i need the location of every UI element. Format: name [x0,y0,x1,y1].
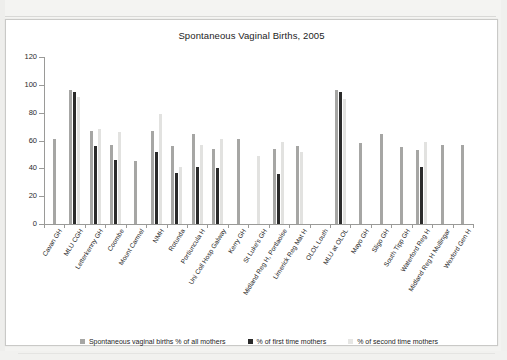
x-axis-tick [473,225,474,228]
legend-item: Spontaneous vaginal births % of all moth… [80,338,226,345]
x-axis-tick [371,225,372,228]
y-axis-tick-label: 100 [11,81,37,89]
bar-group [412,57,432,224]
y-axis-labels: 020406080100120 [6,57,37,225]
x-axis-tick [167,225,168,228]
bar-group [248,57,268,224]
bar [200,145,203,224]
bar [257,156,260,224]
x-axis-tick-label: Cavan GH [42,228,64,258]
bar [420,167,423,224]
page-top-margin [0,0,507,10]
bar-group [350,57,370,224]
x-axis-tick [432,225,433,228]
x-axis-tick [330,225,331,228]
x-axis-tick [248,225,249,228]
x-axis-tick [289,225,290,228]
y-axis-tick-label: 20 [11,192,37,200]
bar [281,142,284,224]
bar [77,97,80,224]
x-axis-tick [453,225,454,228]
chart-legend: Spontaneous vaginal births % of all moth… [44,338,474,345]
y-axis-tick [39,168,44,169]
x-axis-tick-label: Sligo GH [371,228,391,254]
y-axis-tick-label: 120 [11,53,37,61]
bar [343,99,346,224]
bar [90,131,93,224]
y-axis-tick [39,141,44,142]
y-axis-tick [39,113,44,114]
bar [94,146,97,224]
x-axis-tick [187,225,188,228]
bar [118,132,121,224]
x-axis-tick [44,225,45,228]
bar [300,152,303,224]
bar [380,134,383,224]
bar-group [228,57,248,224]
bar [277,174,280,224]
bar [220,139,223,224]
bar [424,142,427,224]
bar [151,131,154,224]
bar-group [126,57,146,224]
x-axis-tick [207,225,208,228]
x-axis-tick [105,225,106,228]
bar [416,150,419,224]
x-axis-tick [310,225,311,228]
y-axis-tick-label: 80 [11,109,37,117]
x-axis-tick [126,225,127,228]
x-axis-tick-label: Kerry GH [227,228,247,255]
legend-label: % of second time mothers [357,338,438,345]
bar-group [453,57,473,224]
bar-group [269,57,289,224]
x-axis-line [44,224,474,225]
bar [155,152,158,224]
y-axis-tick-label: 0 [11,220,37,228]
bar [335,90,338,224]
bar-group [432,57,452,224]
x-axis-tick [228,225,229,228]
bar [98,129,101,224]
bar [216,168,219,224]
bar [400,147,403,224]
x-axis-tick-label: NMH [152,228,166,244]
bar [171,146,174,224]
x-axis-tick [269,225,270,228]
y-axis-tick-label: 60 [11,137,37,145]
bar-group [64,57,84,224]
x-axis-tick [64,225,65,228]
bar [69,90,72,224]
bar-group [44,57,64,224]
legend-item: % of first time mothers [248,338,327,345]
bar-group [289,57,309,224]
x-axis-tick-label: Rotunda [168,228,187,253]
x-axis-tick-label: Coombe [106,228,125,253]
bar-group [85,57,105,224]
bar [114,160,117,224]
bar [175,173,178,224]
bar-group [146,57,166,224]
x-axis-labels: Cavan GHMLU CGHLetterkenny GHCoombeMount… [44,228,474,324]
bar [53,139,56,224]
x-axis-tick [391,225,392,228]
bar [134,161,137,224]
chart-title: Spontaneous Vaginal Births, 2005 [6,30,497,41]
page-rule-top [5,16,496,17]
y-axis-tick [39,85,44,86]
legend-swatch-icon [248,339,253,344]
bar-group [207,57,227,224]
legend-divider [18,353,495,354]
plot-area [44,57,473,224]
bar-group [371,57,391,224]
bar [196,167,199,224]
bar [461,145,464,224]
legend-label: % of first time mothers [257,338,327,345]
chart-frame: Spontaneous Vaginal Births, 2005 0204060… [5,19,498,346]
bar [273,149,276,224]
bar [212,149,215,224]
x-axis-tick [350,225,351,228]
legend-swatch-icon [348,339,353,344]
bar [339,92,342,224]
y-axis-tick [39,196,44,197]
y-axis-tick [39,57,44,58]
